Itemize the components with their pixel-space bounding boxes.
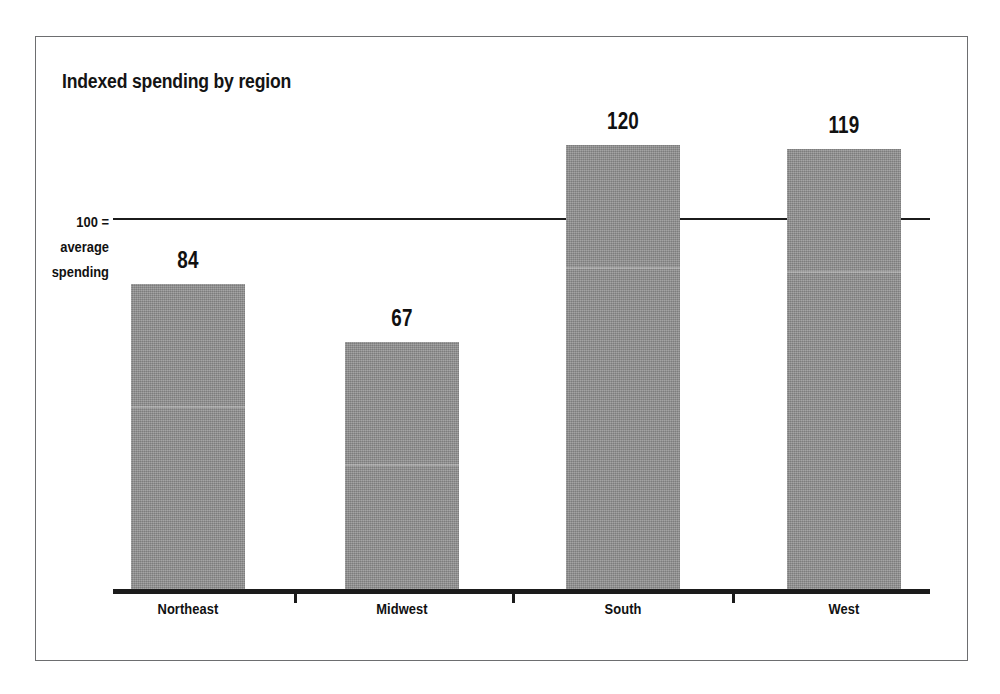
value-label-west: 119 xyxy=(797,112,890,139)
category-label-south: South xyxy=(574,600,672,617)
axis-tick-2 xyxy=(512,594,515,603)
value-label-south: 120 xyxy=(576,108,669,135)
reference-annotation-line-1: 100 = xyxy=(24,209,109,234)
axis-tick-3 xyxy=(732,594,735,603)
value-label-northeast: 84 xyxy=(141,247,234,274)
bar-northeast xyxy=(131,284,245,591)
axis-tick-1 xyxy=(294,594,297,603)
reference-annotation-line-3: spending xyxy=(24,259,109,284)
bar-midwest xyxy=(345,342,459,591)
bar-south xyxy=(566,145,680,591)
category-label-northeast: Northeast xyxy=(139,600,237,617)
reference-line-annotation: 100 = average spending xyxy=(10,209,109,284)
category-label-west: West xyxy=(795,600,893,617)
value-label-midwest: 67 xyxy=(355,305,448,332)
bar-west xyxy=(787,149,901,591)
category-label-midwest: Midwest xyxy=(353,600,451,617)
chart-page: Indexed spending by region 84 67 120 119… xyxy=(0,0,1000,694)
plot-area: 84 67 120 119 Northeast Midwest South We… xyxy=(0,0,1000,694)
x-axis-line xyxy=(113,589,930,594)
reference-annotation-line-2: average xyxy=(24,234,109,259)
